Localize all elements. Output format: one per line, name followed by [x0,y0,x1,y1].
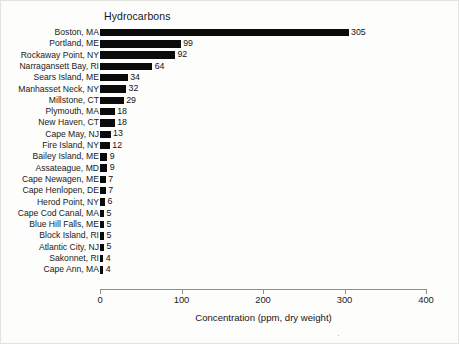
bar-value-label: 18 [117,117,127,128]
bar-fill [100,255,103,262]
bar-value-label: 4 [106,253,111,264]
bar-fill [100,63,152,70]
category-label: Millstone, CT [49,95,99,106]
bar: 4 [100,266,103,273]
category-label: Atlantic City, NJ [39,242,99,253]
plot-area: Boston, MA305Portland, ME99Rockaway Poin… [1,27,459,289]
category-label: Plymouth, MA [46,106,100,117]
bar-value-label: 18 [117,106,127,117]
category-label: Blue Hill Falls, ME [29,219,99,230]
bar-fill [100,142,110,149]
category-label: Cape Cod Canal, MA [18,208,99,219]
bar-row: Cape May, NJ13 [1,129,459,140]
bar-value-label: 305 [351,27,366,38]
bar-fill [100,266,103,273]
bar-row: Cape Cod Canal, MA5 [1,208,459,219]
bar-value-label: 7 [108,185,113,196]
bar-fill [100,232,104,239]
category-label: New Haven, CT [38,117,99,128]
scan-speck [338,335,339,336]
bar-fill [100,51,175,58]
category-label: Sears Island, ME [34,72,99,83]
bar: 5 [100,221,104,228]
bar: 64 [100,63,152,70]
bar-value-label: 32 [129,83,139,94]
bar: 9 [100,153,107,160]
bar-value-label: 5 [107,208,112,219]
category-label: Block Island, RI [39,230,99,241]
category-label: Fire Island, NY [42,140,99,151]
bar: 12 [100,142,110,149]
bar: 7 [100,176,106,183]
bar-fill [100,210,104,217]
category-label: Sakonnet, RI [49,253,99,264]
bar-row: Millstone, CT29 [1,95,459,106]
category-label: Rockaway Point, NY [21,50,99,61]
bar-row: Atlantic City, NJ5 [1,242,459,253]
bar-row: Rockaway Point, NY92 [1,50,459,61]
bar-row: Assateague, MD9 [1,163,459,174]
bar: 99 [100,40,181,47]
bar-fill [100,244,104,251]
bar-row: Sears Island, ME34 [1,72,459,83]
bar-fill [100,97,124,104]
bar: 34 [100,74,128,81]
category-label: Cape Newagen, ME [22,174,99,185]
x-tick-label: 0 [97,294,102,305]
category-label: Herod Point, NY [37,197,99,208]
bar-fill [100,108,115,115]
x-tick-label: 100 [174,294,190,305]
bar-row: Cape Newagen, ME7 [1,174,459,185]
bar-fill [100,119,115,126]
bar-value-label: 5 [107,241,112,252]
x-tick-label: 200 [255,294,271,305]
bar-row: Portland, ME99 [1,38,459,49]
bar: 32 [100,85,126,92]
category-label: Cape May, NJ [45,129,99,140]
bar-fill [100,153,107,160]
bar: 4 [100,255,103,262]
bar-row: Blue Hill Falls, ME5 [1,219,459,230]
bar-fill [100,74,128,81]
bar: 5 [100,244,104,251]
bar-row: Cape Henlopen, DE7 [1,185,459,196]
bar-value-label: 12 [112,140,122,151]
bar-value-label: 64 [155,61,165,72]
chart-title: Hydrocarbons [104,10,171,22]
bar-value-label: 34 [130,72,140,83]
bar: 9 [100,164,107,171]
category-label: Assateague, MD [35,163,99,174]
category-label: Portland, ME [49,38,99,49]
x-axis-title: Concentration (ppm, dry weight) [100,312,427,323]
bar-fill [100,131,111,138]
bar: 5 [100,232,104,239]
bar-row: Block Island, RI5 [1,230,459,241]
category-label: Narragansett Bay, RI [19,61,99,72]
bar-value-label: 6 [107,196,112,207]
bar-value-label: 7 [108,174,113,185]
bar-value-label: 13 [113,128,123,139]
bar-fill [100,29,349,36]
bar-row: Manhasset Neck, NY32 [1,84,459,95]
bar-row: Fire Island, NY12 [1,140,459,151]
bar: 305 [100,29,349,36]
bar: 7 [100,187,106,194]
category-label: Cape Henlopen, DE [23,185,99,196]
bar: 29 [100,97,124,104]
bar-fill [100,198,105,205]
category-label: Manhasset Neck, NY [18,84,99,95]
category-label: Cape Ann, MA [44,264,99,275]
bar-row: Bailey Island, ME9 [1,151,459,162]
bar-fill [100,221,104,228]
bar-row: Plymouth, MA18 [1,106,459,117]
bar-fill [100,176,106,183]
bar: 18 [100,119,115,126]
bar: 92 [100,51,175,58]
category-label: Bailey Island, ME [33,151,99,162]
bar-value-label: 92 [177,49,187,60]
bar-value-label: 9 [110,162,115,173]
category-label: Boston, MA [55,27,99,38]
x-tick-label: 300 [337,294,353,305]
bar-fill [100,164,107,171]
chart-screenshot: Hydrocarbons Boston, MA305Portland, ME99… [0,0,459,344]
